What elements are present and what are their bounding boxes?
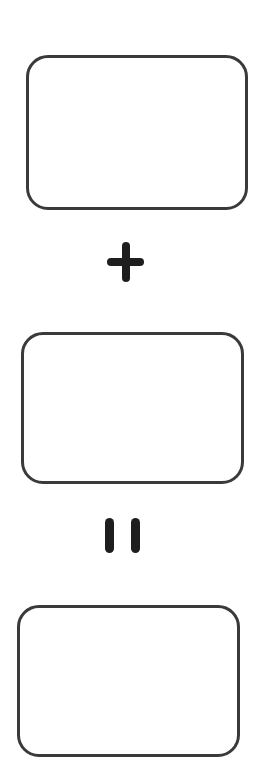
equals-sign-icon	[104, 518, 140, 554]
first-addend-box	[26, 55, 248, 210]
second-addend-box	[21, 332, 244, 484]
plus-sign-icon	[107, 242, 144, 282]
equals-bar-left	[105, 518, 114, 553]
plus-vertical-stroke	[122, 242, 130, 282]
equals-bar-right	[131, 518, 140, 553]
sum-box	[17, 605, 240, 757]
